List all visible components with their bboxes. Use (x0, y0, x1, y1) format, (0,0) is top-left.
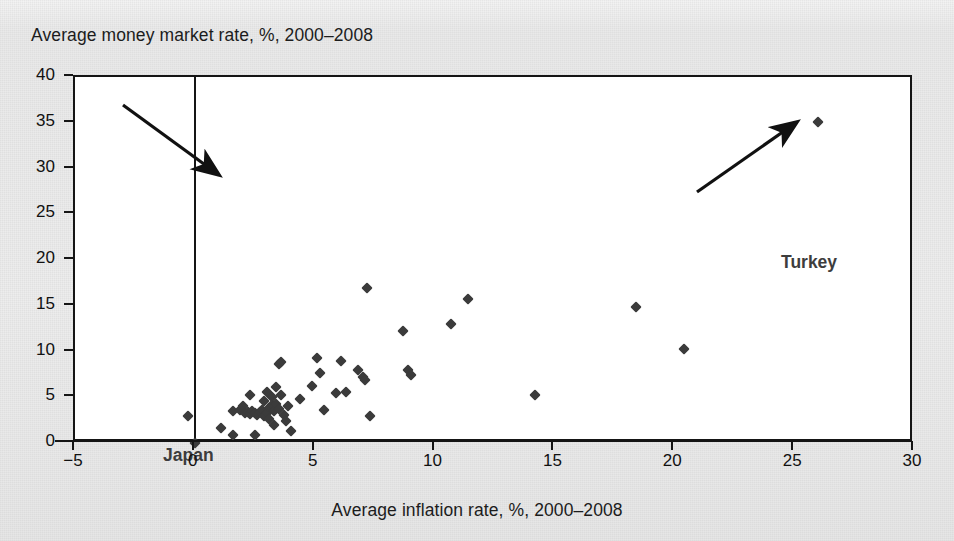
x-tick-mark (551, 441, 553, 450)
scatter-point (364, 410, 375, 421)
scatter-point (678, 343, 689, 354)
y-tick-label: 5 (19, 385, 55, 405)
scatter-point (314, 368, 325, 379)
scatter-point (462, 294, 473, 305)
scatter-point (446, 318, 457, 329)
y-tick-label: 35 (19, 111, 55, 131)
x-tick-label: 20 (642, 451, 702, 471)
x-axis-baseline (55, 440, 912, 442)
scatter-point (295, 393, 306, 404)
y-tick-mark (64, 303, 73, 305)
turkey-arrow-icon (689, 110, 819, 200)
y-tick-label: 25 (19, 202, 55, 222)
x-tick-mark (192, 441, 194, 450)
x-tick-label: 30 (882, 451, 942, 471)
scatter-point (319, 404, 330, 415)
scatter-point (216, 423, 227, 434)
x-axis-title: Average inflation rate, %, 2000–2008 (0, 500, 954, 521)
scatter-point (630, 301, 641, 312)
y-tick-mark (64, 74, 73, 76)
scatter-point (307, 381, 318, 392)
x-tick-label: 10 (403, 451, 463, 471)
japan-arrow-icon (115, 99, 245, 189)
y-tick-mark (64, 349, 73, 351)
y-tick-label: 30 (19, 157, 55, 177)
y-tick-label: 15 (19, 294, 55, 314)
plot-area: Japan Turkey (73, 75, 912, 441)
y-tick-label: 10 (19, 340, 55, 360)
y-tick-label: 40 (19, 65, 55, 85)
x-tick-label: 5 (283, 451, 343, 471)
x-tick-mark (432, 441, 434, 450)
scatter-point (244, 389, 255, 400)
x-tick-label: −5 (43, 451, 103, 471)
scatter-point (398, 326, 409, 337)
scatter-point (530, 389, 541, 400)
x-tick-mark (791, 441, 793, 450)
turkey-annotation-label: Turkey (781, 252, 837, 273)
y-tick-label: 0 (19, 431, 55, 451)
y-axis-title: Average money market rate, %, 2000–2008 (31, 25, 373, 46)
y-tick-label: 20 (19, 248, 55, 268)
x-tick-mark (671, 441, 673, 450)
scatter-point (311, 352, 322, 363)
x-tick-label: 15 (522, 451, 582, 471)
y-tick-mark (64, 120, 73, 122)
scatter-point (362, 283, 373, 294)
figure-page: Average money market rate, %, 2000–2008 … (0, 0, 954, 541)
x-tick-label: 25 (762, 451, 822, 471)
scatter-point (228, 429, 239, 440)
y-tick-mark (64, 166, 73, 168)
y-tick-mark (64, 257, 73, 259)
scatter-point (335, 355, 346, 366)
scatter-point (249, 429, 260, 440)
x-tick-mark (312, 441, 314, 450)
scatter-point (340, 386, 351, 397)
x-tick-label: 0 (163, 451, 223, 471)
scatter-point (182, 410, 193, 421)
x-tick-mark (72, 441, 74, 450)
y-tick-mark (64, 394, 73, 396)
x-tick-mark (911, 441, 913, 450)
scatter-point (285, 425, 296, 436)
y-tick-mark (64, 211, 73, 213)
